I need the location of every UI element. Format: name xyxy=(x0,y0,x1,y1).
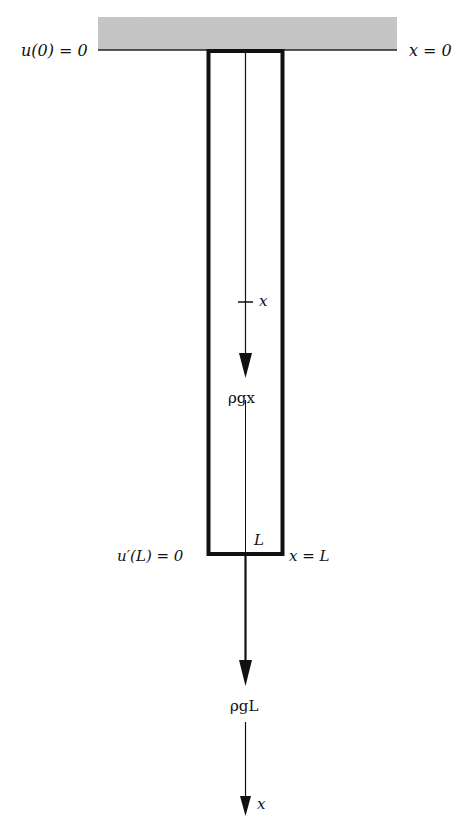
boundary-top-right-label: x = 0 xyxy=(409,43,452,59)
boundary-top-left-label: u(0) = 0 xyxy=(21,43,88,59)
boundary-bottom-left-label: u′(L) = 0 xyxy=(117,549,183,564)
position-label: x xyxy=(259,294,267,309)
fixed-support xyxy=(98,17,397,50)
u0-equation: u(0) = 0 xyxy=(21,41,88,60)
boundary-bottom-right-label: x = L xyxy=(289,549,330,564)
internal-force-arrowhead xyxy=(239,353,252,378)
end-force-label: ρgL xyxy=(230,699,258,714)
x-axis-arrowhead xyxy=(240,796,251,816)
axis-label: x xyxy=(257,797,265,812)
end-force-arrowhead xyxy=(239,660,252,686)
internal-force-label: ρgx xyxy=(228,391,255,406)
length-label: L xyxy=(254,533,264,548)
